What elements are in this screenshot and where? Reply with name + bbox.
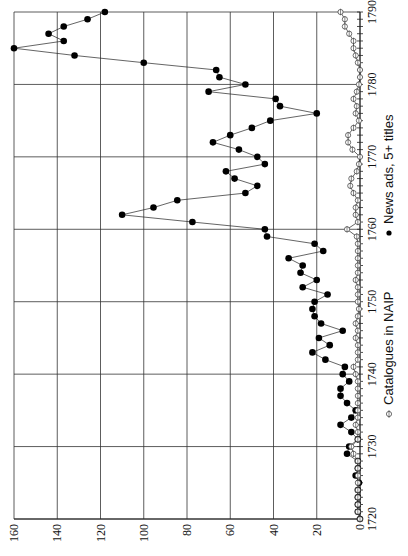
news-ads-point xyxy=(249,125,256,132)
news-ads-point xyxy=(216,74,223,81)
news-ads-point xyxy=(210,139,217,146)
news-ads-point xyxy=(346,378,353,385)
news-ads-point xyxy=(254,154,261,161)
news-ads-point xyxy=(348,414,355,421)
news-ads-point xyxy=(348,429,355,436)
news-ads-point xyxy=(322,356,329,363)
news-ads-point xyxy=(71,52,78,59)
news-ads-point xyxy=(326,342,333,349)
news-ads-point xyxy=(311,240,318,247)
news-ads-point xyxy=(337,385,344,392)
axes xyxy=(14,12,363,519)
year-tick-label: 1760 xyxy=(365,217,379,241)
news-ads-point xyxy=(119,212,126,219)
value-tick-label: 0 xyxy=(353,524,367,530)
news-ads-point xyxy=(309,306,316,313)
news-ads-point xyxy=(174,197,181,204)
year-tick-label: 1780 xyxy=(365,72,379,96)
news-ads-point xyxy=(320,248,327,255)
value-tick-label: 140 xyxy=(50,524,64,542)
news-ads-point xyxy=(140,59,147,66)
value-tick-label: 80 xyxy=(180,524,194,536)
news-ads-point xyxy=(313,110,320,117)
news-ads-point xyxy=(344,451,351,458)
news-ads-point xyxy=(102,9,109,16)
year-tick-label: 1750 xyxy=(365,290,379,314)
news-ads-point xyxy=(339,371,346,378)
value-tick-label: 60 xyxy=(223,524,237,536)
news-ads-point xyxy=(313,277,320,284)
news-ads-point xyxy=(262,226,269,233)
news-ads-point xyxy=(264,233,271,240)
news-ads-point xyxy=(242,190,249,197)
year-tick-label: 1740 xyxy=(365,362,379,386)
news-ads-point xyxy=(45,30,52,37)
news-ads-point xyxy=(262,161,269,168)
value-tick-label: 160 xyxy=(7,524,21,542)
news-ads-point xyxy=(267,117,274,124)
gridlines xyxy=(14,12,360,519)
legend-label-catalogues: Catalogues in NAIP xyxy=(381,292,396,405)
news-ads-point xyxy=(285,255,292,262)
legend: Catalogues in NAIPNews ads, 5+ titles xyxy=(381,114,396,418)
news-ads-point xyxy=(344,400,351,407)
news-ads-point xyxy=(277,103,284,110)
news-ads-point xyxy=(11,45,18,52)
news-ads-point xyxy=(223,168,230,175)
legend-filled-circle-icon xyxy=(386,230,391,235)
year-tick-label: 1790 xyxy=(365,0,379,24)
news-ads-point xyxy=(205,88,212,95)
news-ads-point xyxy=(60,23,67,30)
chart: 17201730174017501760177017801790 0204060… xyxy=(0,0,408,556)
news-ads-point xyxy=(311,313,318,320)
value-tick-label: 100 xyxy=(137,524,151,542)
news-ads-point xyxy=(227,132,234,139)
news-ads-point xyxy=(339,327,346,334)
news-ads-point xyxy=(254,183,261,190)
legend-label-news-ads: News ads, 5+ titles xyxy=(381,114,396,224)
news-ads-point xyxy=(318,320,325,327)
news-ads-point xyxy=(242,81,249,88)
news-ads-point xyxy=(324,291,331,298)
news-ads-point xyxy=(150,204,157,211)
news-ads-point xyxy=(342,364,349,371)
news-ads-point xyxy=(84,16,91,23)
news-ads-point xyxy=(309,349,316,356)
year-tick-labels: 17201730174017501760177017801790 xyxy=(365,0,379,531)
year-tick-label: 1720 xyxy=(365,507,379,531)
value-tick-label: 120 xyxy=(94,524,108,542)
news-ads-point xyxy=(213,67,220,74)
year-tick-label: 1730 xyxy=(365,435,379,459)
news-ads-point xyxy=(189,219,196,226)
value-tick-label: 40 xyxy=(267,524,281,536)
news-ads-point xyxy=(60,38,67,45)
year-tick-label: 1770 xyxy=(365,145,379,169)
news-ads-point xyxy=(299,262,306,269)
value-tick-label: 20 xyxy=(310,524,324,536)
news-ads-point xyxy=(272,96,279,103)
news-ads-point xyxy=(337,422,344,429)
news-ads-point xyxy=(236,146,243,153)
news-ads-point xyxy=(297,269,304,276)
value-tick-labels: 020406080100120140160 xyxy=(7,524,367,542)
news-ads-point xyxy=(337,393,344,400)
news-ads-point xyxy=(299,284,306,291)
news-ads-point xyxy=(316,335,323,342)
news-ads-point xyxy=(311,298,318,305)
news-ads-point xyxy=(231,175,238,182)
